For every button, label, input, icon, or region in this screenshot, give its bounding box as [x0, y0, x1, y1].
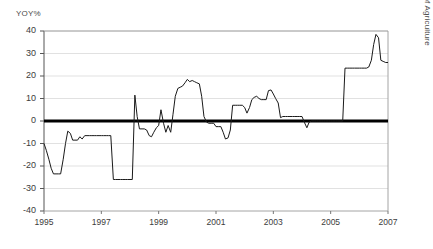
data-series-line — [44, 34, 388, 179]
line-chart-plot — [0, 0, 433, 249]
y-tick-label: 40 — [10, 25, 36, 35]
y-tick-label: -30 — [10, 183, 36, 193]
x-tick-label: 1999 — [139, 217, 179, 227]
y-tick-label: 10 — [10, 93, 36, 103]
x-tick-label: 1997 — [81, 217, 121, 227]
y-tick-label: -20 — [10, 160, 36, 170]
x-tick-label: 2001 — [196, 217, 236, 227]
y-tick-label: -10 — [10, 138, 36, 148]
chart-container: YOY% 403020100-10-20-30-40 1995199719992… — [0, 0, 433, 249]
y-tick-label: 0 — [10, 115, 36, 125]
y-tick-label: 20 — [10, 70, 36, 80]
x-tick-label: 1995 — [24, 217, 64, 227]
source-note: Source: U.S. Department of Agriculture — [423, 0, 432, 60]
x-tick-label: 2005 — [311, 217, 351, 227]
x-tick-label: 2003 — [253, 217, 293, 227]
x-tick-label: 2007 — [368, 217, 408, 227]
y-tick-label: -40 — [10, 205, 36, 215]
y-tick-label: 30 — [10, 48, 36, 58]
